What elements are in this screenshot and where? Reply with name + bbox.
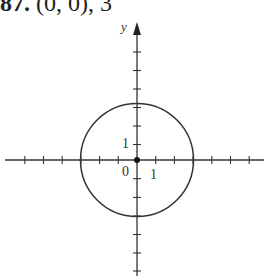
origin-label: 0 — [122, 164, 129, 179]
y-axis-arrow-icon — [133, 22, 141, 35]
y-axis-label: y — [119, 19, 127, 34]
center-point — [134, 157, 140, 163]
circle-graph: y 1 0 1 — [0, 0, 264, 276]
x-tick-label-1: 1 — [150, 167, 157, 182]
y-tick-label-1: 1 — [122, 136, 129, 151]
